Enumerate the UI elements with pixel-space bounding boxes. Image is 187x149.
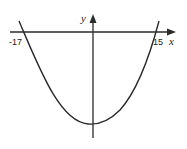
y-axis-label: y: [80, 12, 86, 24]
x-axis-label: x: [168, 35, 174, 47]
right-root-label: 15: [153, 37, 163, 47]
parabola-chart: y x -17 15: [0, 0, 187, 149]
y-axis-arrow-icon: [90, 14, 97, 23]
parabola-curve: [19, 21, 159, 124]
left-root-label: -17: [9, 37, 22, 47]
